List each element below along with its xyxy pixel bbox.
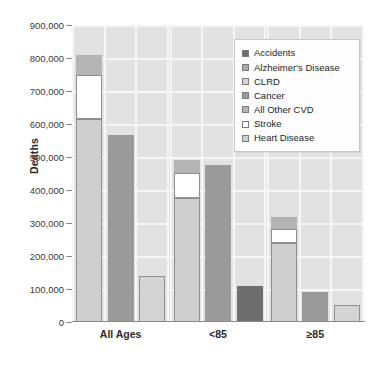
legend-swatch-icon <box>242 121 249 128</box>
gridline-vertical <box>104 25 106 322</box>
y-tick-mark <box>66 124 72 125</box>
legend-item-label: Accidents <box>254 48 295 58</box>
bar-segment-stroke <box>76 75 102 120</box>
y-tick-mark <box>66 91 72 92</box>
legend-item-label: All Other CVD <box>254 105 314 115</box>
bar-AllAges-1 <box>108 135 134 322</box>
bar-85-1 <box>205 165 231 322</box>
legend-item-stroke[interactable]: Stroke <box>242 117 353 131</box>
y-tick-label: 0 <box>59 317 64 328</box>
bar-85-0 <box>174 160 200 322</box>
gridline-vertical <box>167 25 169 322</box>
gridline-horizontal <box>72 25 364 27</box>
bar-85-0 <box>271 217 297 322</box>
y-tick-label: 700,000 <box>30 86 64 97</box>
bar-segment-cancer <box>108 135 134 322</box>
y-tick-label: 200,000 <box>30 251 64 262</box>
legend-item-label: Stroke <box>254 119 281 129</box>
y-tick-label: 900,000 <box>30 20 64 31</box>
x-tick-label-AllAges: All Ages <box>100 328 142 340</box>
legend-item-label: Heart Disease <box>254 133 314 143</box>
bar-85-2 <box>334 305 360 322</box>
gridline-vertical <box>201 25 203 322</box>
y-tick-mark <box>66 289 72 290</box>
legend-swatch-icon <box>242 106 249 113</box>
legend-swatch-icon <box>242 50 249 57</box>
bar-segment-accidents <box>237 286 263 322</box>
legend-swatch-icon <box>242 92 249 99</box>
bar-85-1 <box>302 292 328 322</box>
y-tick-mark <box>66 223 72 224</box>
legend-item-clrd[interactable]: CLRD <box>242 74 353 88</box>
legend-item-cancer[interactable]: Cancer <box>242 89 353 103</box>
y-tick-mark <box>66 256 72 257</box>
y-tick-mark <box>66 25 72 26</box>
y-tick-label: 100,000 <box>30 284 64 295</box>
y-tick-mark <box>66 190 72 191</box>
x-tick-label-85: ≥85 <box>307 328 324 340</box>
y-tick-label: 800,000 <box>30 53 64 64</box>
legend-swatch-icon <box>242 64 249 71</box>
y-tick-mark <box>66 58 72 59</box>
bar-AllAges-2 <box>139 276 165 322</box>
bar-segment-clrd <box>334 305 360 322</box>
y-tick-label: 600,000 <box>30 119 64 130</box>
gridline-vertical <box>362 25 364 322</box>
legend-swatch-icon <box>242 78 249 85</box>
gridline-vertical <box>135 25 137 322</box>
y-tick-mark <box>66 322 72 323</box>
legend-item-label: CLRD <box>254 77 280 87</box>
bar-segment-clrd <box>139 276 165 322</box>
y-tick-label: 400,000 <box>30 185 64 196</box>
deaths-bar-chart: Deaths 0100,000200,000300,000400,000500,… <box>0 0 370 367</box>
gridline-vertical <box>170 25 172 322</box>
bar-segment-stroke <box>174 173 200 198</box>
y-tick-label: 300,000 <box>30 218 64 229</box>
bar-segment-cancer <box>302 292 328 322</box>
legend-item-heart-disease[interactable]: Heart Disease <box>242 131 353 145</box>
gridline-vertical <box>72 25 74 322</box>
bar-segment-all-other-cvd <box>76 55 102 75</box>
bar-segment-stroke <box>271 229 297 243</box>
bar-85-2 <box>237 286 263 322</box>
bar-segment-all-other-cvd <box>174 160 200 173</box>
legend-item-accidents[interactable]: Accidents <box>242 46 353 60</box>
bar-segment-cancer <box>205 165 231 322</box>
bar-segment-heart-disease <box>174 198 200 322</box>
bar-AllAges-0 <box>76 55 102 322</box>
bar-segment-heart-disease <box>76 119 102 322</box>
y-tick-label: 500,000 <box>30 152 64 163</box>
legend-swatch-icon <box>242 135 249 142</box>
bar-segment-heart-disease <box>271 243 297 322</box>
legend-item-alzheimer-s-disease[interactable]: Alzheimer's Disease <box>242 60 353 74</box>
y-axis-tick-labels: 0100,000200,000300,000400,000500,000600,… <box>0 0 68 367</box>
legend-item-label: Cancer <box>254 91 285 101</box>
x-axis-line <box>72 321 365 322</box>
x-tick-label-85: <85 <box>209 328 227 340</box>
bar-segment-all-other-cvd <box>271 217 297 229</box>
chart-legend: AccidentsAlzheimer's DiseaseCLRDCancerAl… <box>234 39 360 152</box>
legend-item-all-other-cvd[interactable]: All Other CVD <box>242 103 353 117</box>
legend-item-label: Alzheimer's Disease <box>254 63 340 73</box>
y-tick-mark <box>66 157 72 158</box>
